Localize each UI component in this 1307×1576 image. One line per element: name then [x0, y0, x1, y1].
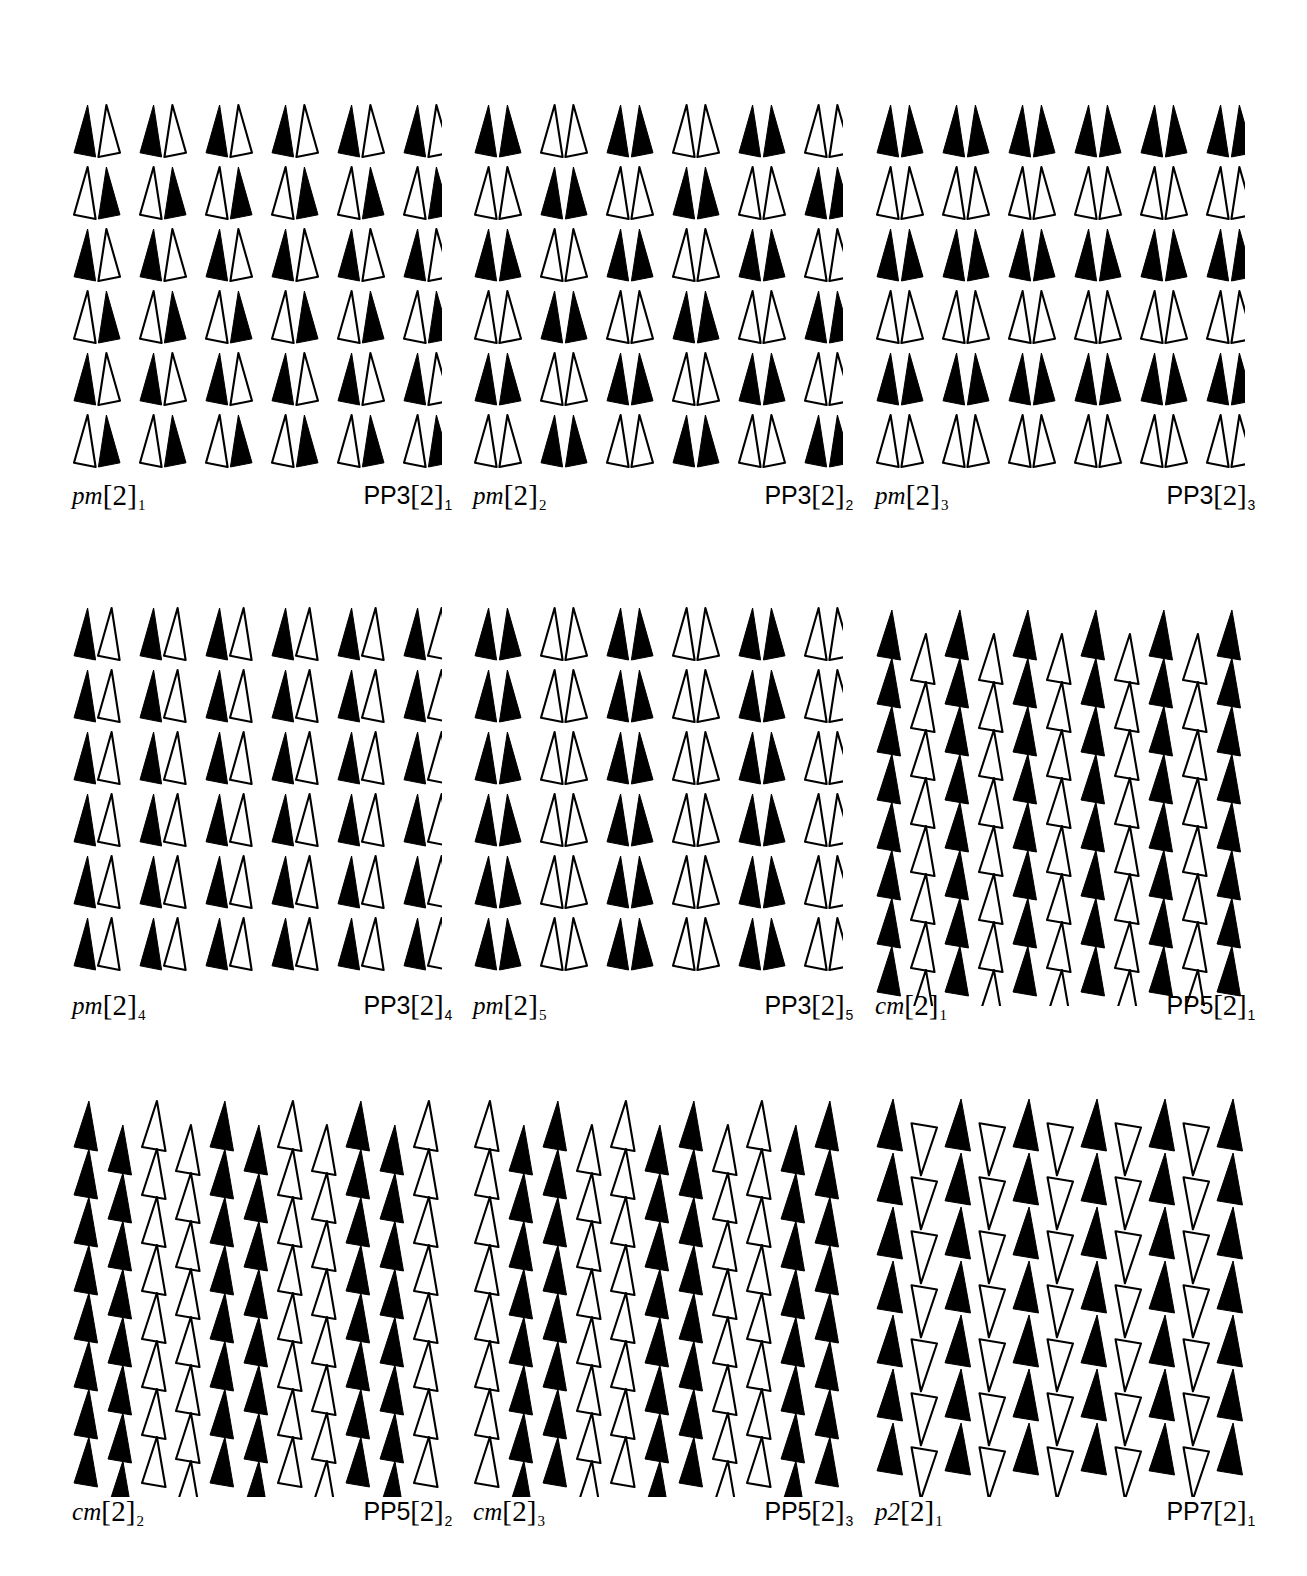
label-index: 2	[1223, 989, 1237, 1021]
triangle-B	[1081, 1207, 1107, 1259]
label-base: pm	[72, 992, 103, 1019]
triangle-W	[979, 682, 1003, 732]
triangle-B	[1013, 946, 1037, 996]
triangle-W	[980, 1393, 1006, 1445]
triangle-W	[230, 105, 252, 157]
label-subscript: 1	[1246, 1513, 1255, 1529]
triangle-B	[1081, 850, 1105, 900]
triangle-B	[1149, 1423, 1175, 1475]
triangle-B	[631, 856, 653, 908]
triangle-B	[210, 1245, 234, 1295]
triangle-W	[1048, 1393, 1074, 1445]
triangle-B	[1231, 229, 1245, 281]
triangle-W	[805, 353, 827, 405]
triangle-W	[362, 353, 384, 405]
triangle-B	[206, 856, 228, 908]
triangle-B	[943, 353, 965, 405]
triangle-W	[877, 415, 899, 467]
triangle-B	[673, 415, 695, 467]
triangle-W	[747, 1341, 771, 1391]
triangle-B	[140, 229, 162, 281]
triangle-B	[945, 706, 969, 756]
triangle-W	[673, 794, 695, 846]
triangle-B	[543, 1293, 567, 1343]
pattern-canvas-cm-1	[875, 606, 1245, 1006]
pattern-panel-cm-3: cm[2]3PP5[2]3	[473, 1097, 853, 1527]
triangle-B	[428, 415, 442, 467]
label-base: pm	[473, 992, 504, 1019]
triangle-B	[206, 670, 228, 722]
triangle-W	[943, 291, 965, 343]
triangle-W	[607, 167, 629, 219]
triangle-B	[362, 415, 384, 467]
triangle-W	[176, 1221, 200, 1271]
triangle-W	[912, 1231, 938, 1283]
label-subscript: 4	[443, 1007, 452, 1023]
triangle-B	[1217, 754, 1241, 804]
triangle-B	[475, 670, 497, 722]
triangle-W	[164, 353, 186, 405]
triangle-B	[499, 353, 521, 405]
triangle-B	[244, 1461, 268, 1497]
pattern-panel-pm-1: pm[2]1PP3[2]1	[72, 103, 452, 533]
triangle-W	[1231, 167, 1245, 219]
triangle-B	[74, 1389, 98, 1439]
triangle-B	[945, 1099, 971, 1151]
triangle-B	[645, 1221, 669, 1271]
triangle-B	[74, 1245, 98, 1295]
triangle-W	[565, 794, 587, 846]
label-index: 2	[910, 1495, 925, 1527]
label-base: p2	[875, 1498, 900, 1525]
triangle-B	[272, 608, 294, 660]
triangle-B	[210, 1389, 234, 1439]
triangle-B	[815, 1101, 839, 1151]
triangle-B	[74, 670, 96, 722]
triangle-B	[272, 794, 294, 846]
triangle-W	[142, 1197, 166, 1247]
triangle-W	[805, 794, 827, 846]
triangle-W	[565, 856, 587, 908]
triangle-B	[631, 229, 653, 281]
triangle-W	[911, 682, 935, 732]
triangle-B	[230, 291, 252, 343]
label-subscript: 1	[443, 497, 452, 513]
triangle-B	[1013, 1369, 1039, 1421]
triangle-B	[945, 1423, 971, 1475]
triangle-B	[763, 856, 785, 908]
triangle-B	[108, 1125, 132, 1175]
triangle-B	[338, 856, 360, 908]
triangle-B	[74, 856, 96, 908]
triangle-W	[912, 1447, 938, 1497]
triangle-W	[1009, 291, 1031, 343]
triangle-B	[206, 353, 228, 405]
triangle-W	[362, 608, 384, 660]
triangle-B	[763, 794, 785, 846]
triangle-B	[346, 1197, 370, 1247]
triangle-W	[428, 670, 442, 722]
triangle-W	[565, 105, 587, 157]
panel-label-left: pm[2]2	[473, 481, 547, 513]
triangle-B	[1231, 105, 1245, 157]
triangle-W	[763, 167, 785, 219]
triangle-B	[499, 229, 521, 281]
triangle-W	[673, 918, 695, 970]
triangle-B	[509, 1317, 533, 1367]
triangle-B	[829, 415, 843, 467]
triangle-W	[697, 353, 719, 405]
triangle-W	[912, 1339, 938, 1391]
triangle-W	[577, 1461, 601, 1497]
label-index: 2	[111, 1495, 126, 1527]
triangle-W	[611, 1197, 635, 1247]
triangle-W	[312, 1413, 336, 1463]
label-bracket: [	[811, 989, 820, 1021]
triangle-W	[1207, 415, 1229, 467]
label-bracket: ]	[930, 479, 940, 511]
triangle-B	[739, 608, 761, 660]
triangle-W	[1184, 1177, 1210, 1229]
triangle-B	[815, 1437, 839, 1487]
triangle-B	[945, 1369, 971, 1421]
panel-caption: pm[2]2PP3[2]2	[473, 481, 853, 513]
triangle-B	[877, 754, 901, 804]
triangle-B	[74, 1293, 98, 1343]
triangle-W	[631, 415, 653, 467]
